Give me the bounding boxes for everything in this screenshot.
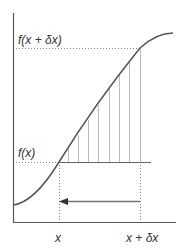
x-label: x	[54, 231, 62, 245]
f-x-plus-dx-label: f(x + δx)	[18, 33, 62, 47]
arrowhead-icon	[59, 198, 68, 205]
f-x-label: f(x)	[18, 146, 35, 160]
integral-approximation-diagram: f(x + δx) f(x) x x + δx	[0, 0, 188, 250]
hatch-lines	[69, 48, 141, 162]
x-plus-dx-label: x + δx	[125, 231, 159, 245]
function-curve	[13, 33, 173, 205]
left-arrow	[59, 198, 140, 205]
